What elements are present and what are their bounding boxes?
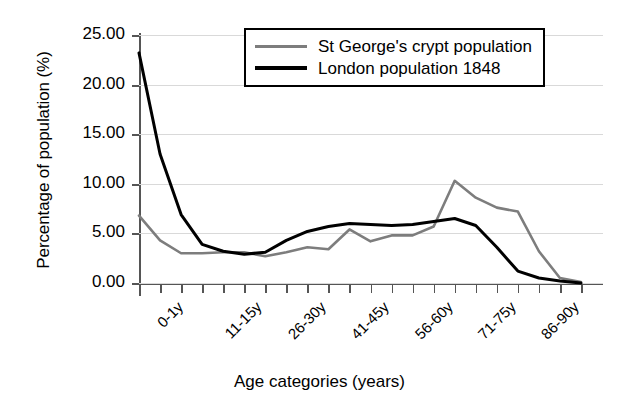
y-axis-tick-label: 15.00 — [5, 123, 125, 143]
line-chart: Percentage of population (%) 0.005.0010.… — [0, 0, 639, 419]
legend-item: London population 1848 — [255, 57, 532, 79]
x-axis-tick — [371, 285, 373, 293]
x-axis-tick — [581, 285, 583, 293]
x-axis-tick — [392, 285, 394, 293]
x-axis-tick — [497, 285, 499, 293]
x-axis-tick — [307, 285, 309, 293]
legend-item-label: London population 1848 — [318, 60, 500, 77]
x-axis-tick-label: 0-1y — [154, 298, 187, 331]
x-axis-tick — [202, 285, 204, 293]
x-axis-tick-label: 71-75y — [474, 298, 518, 342]
x-axis-tick — [349, 285, 351, 293]
legend-item-label: St George's crypt population — [318, 38, 532, 55]
x-axis-tick-label: 86-90y — [537, 298, 581, 342]
gridline — [139, 283, 603, 284]
x-axis-tick — [286, 285, 288, 293]
legend-line-icon — [255, 66, 307, 70]
x-axis-tick — [181, 285, 183, 293]
x-axis-tick — [518, 285, 520, 293]
y-axis-tick-label: 25.00 — [5, 24, 125, 44]
x-axis-title: Age categories (years) — [0, 372, 639, 392]
x-axis-tick — [244, 285, 246, 293]
x-axis-tick — [413, 285, 415, 293]
x-axis-tick-label: 26-30y — [285, 298, 329, 342]
legend-item: St George's crypt population — [255, 35, 532, 57]
x-axis-tick-label: 41-45y — [348, 298, 392, 342]
x-axis-tick — [476, 285, 478, 293]
x-axis-tick-label: 56-60y — [411, 298, 455, 342]
series-line — [139, 53, 581, 283]
x-axis-tick — [539, 285, 541, 293]
legend: St George's crypt populationLondon popul… — [244, 28, 545, 87]
x-axis-tick — [160, 285, 162, 293]
legend-line-icon — [255, 45, 307, 48]
x-axis-tick — [434, 285, 436, 293]
x-axis-tick — [265, 285, 267, 293]
y-axis-tick-label: 0.00 — [5, 272, 125, 292]
x-axis-tick-label: 11-15y — [221, 298, 265, 342]
x-axis-tick — [560, 285, 562, 293]
x-axis-tick — [223, 285, 225, 293]
x-axis-tick — [328, 285, 330, 293]
x-axis-tick — [139, 285, 141, 296]
y-axis-title: Percentage of population (%) — [34, 20, 54, 300]
y-axis-tick-label: 5.00 — [5, 222, 125, 242]
x-axis-tick — [455, 285, 457, 293]
y-axis-tick-label: 20.00 — [5, 74, 125, 94]
y-axis-tick-label: 10.00 — [5, 173, 125, 193]
